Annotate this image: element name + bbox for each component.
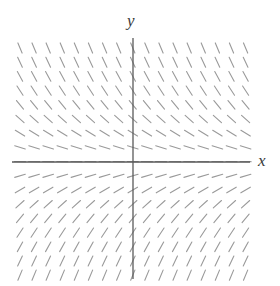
slope-segment <box>213 187 222 193</box>
slope-segment <box>16 115 24 122</box>
slope-segment <box>242 101 249 110</box>
slope-segment <box>17 242 22 252</box>
slope-segment <box>44 115 52 122</box>
slope-segment <box>185 115 193 122</box>
slope-segment <box>215 57 220 67</box>
slope-segment <box>43 174 54 177</box>
slope-segment <box>31 228 37 237</box>
slope-segment <box>172 242 177 252</box>
slope-segment <box>199 201 207 208</box>
slope-segment <box>46 270 50 280</box>
slope-segment <box>142 187 151 193</box>
slope-segment <box>46 72 51 82</box>
slope-segment <box>32 270 36 280</box>
slope-segment <box>59 214 66 222</box>
slope-segment <box>74 256 79 266</box>
slope-segment <box>243 256 248 266</box>
slope-segment <box>103 43 107 53</box>
slope-segment <box>43 146 54 149</box>
slope-segment <box>201 270 205 280</box>
slope-segment <box>187 72 192 82</box>
slope-segment <box>187 57 192 67</box>
slope-segment <box>88 256 93 266</box>
slope-segment <box>16 201 24 208</box>
slope-segment <box>100 130 109 136</box>
slope-segment <box>243 242 248 252</box>
slope-segment <box>58 130 67 136</box>
slope-segment <box>201 57 206 67</box>
slope-segment <box>102 228 108 237</box>
slope-segment <box>113 174 124 177</box>
slope-segment <box>44 130 53 136</box>
slope-segment <box>172 101 179 110</box>
slope-segment <box>199 115 207 122</box>
slope-segment <box>58 187 67 193</box>
slope-segment <box>142 174 153 177</box>
slope-segment <box>242 214 249 222</box>
slope-segment <box>60 242 65 252</box>
slope-segment <box>15 130 24 136</box>
slope-segment <box>60 72 65 82</box>
slope-segment <box>158 101 165 110</box>
slope-segment <box>101 214 108 222</box>
slope-segment <box>88 43 92 53</box>
slope-segment <box>57 146 68 149</box>
slope-segment <box>157 115 165 122</box>
slope-segment <box>173 270 177 280</box>
slope-segment <box>213 115 221 122</box>
slope-segment <box>199 187 208 193</box>
slope-segment <box>45 86 51 95</box>
slope-segment <box>101 101 108 110</box>
slope-segment <box>74 57 79 67</box>
slope-segment <box>45 228 51 237</box>
slope-segment <box>157 214 164 222</box>
slope-segment <box>158 228 164 237</box>
slope-segment <box>88 242 93 252</box>
slope-segment <box>240 146 251 149</box>
slope-segment <box>159 256 164 266</box>
slope-segment <box>71 146 82 149</box>
slope-segment <box>71 174 82 177</box>
slope-segment <box>60 43 64 53</box>
slope-segment <box>215 72 220 82</box>
slope-segment <box>87 86 93 95</box>
slope-segment <box>101 115 109 122</box>
slope-segment <box>115 201 123 208</box>
slope-segment <box>74 72 79 82</box>
slope-segment <box>17 101 24 110</box>
slope-segment <box>186 101 193 110</box>
slope-segment <box>74 270 78 280</box>
slope-segment <box>85 146 96 149</box>
slope-segment <box>187 270 191 280</box>
slope-segment <box>60 256 65 266</box>
slope-segment <box>187 256 192 266</box>
slope-segment <box>143 214 150 222</box>
slope-segment <box>142 130 151 136</box>
slope-segment <box>200 86 206 95</box>
slope-segment <box>186 86 192 95</box>
slope-segment <box>116 86 122 95</box>
slope-segment <box>86 130 95 136</box>
slope-segment <box>243 57 248 67</box>
slope-segment <box>144 72 149 82</box>
slope-segment <box>198 174 209 177</box>
slope-segment <box>187 242 192 252</box>
slope-segment <box>214 86 220 95</box>
slope-segment <box>59 228 65 237</box>
slope-segment <box>117 270 121 280</box>
slope-segment <box>214 214 221 222</box>
slope-segment <box>46 57 51 67</box>
slope-segment <box>201 242 206 252</box>
slope-segment <box>100 187 109 193</box>
slope-segment <box>15 174 26 177</box>
slope-segment <box>72 115 80 122</box>
slope-segment <box>186 214 193 222</box>
slope-segment <box>18 256 23 266</box>
slope-segment <box>86 201 94 208</box>
slope-segment <box>144 228 150 237</box>
slope-segment <box>228 214 235 222</box>
slope-segment <box>144 242 149 252</box>
slope-field-figure: y x <box>0 0 280 286</box>
slope-segment <box>116 242 121 252</box>
slope-segment <box>116 256 121 266</box>
